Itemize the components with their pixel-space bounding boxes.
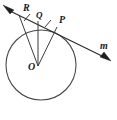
geometry-figure: R Q P O m [0, 0, 117, 120]
circle-outline [6, 30, 76, 100]
point-label-O: O [28, 61, 35, 72]
point-label-R: R [22, 2, 30, 13]
point-label-P: P [59, 14, 66, 25]
arrow-down-right-icon [100, 52, 111, 61]
tick-mark-QP [45, 20, 51, 27]
segment-OP [38, 27, 57, 66]
geometry-diagram-canvas: R Q P O m [0, 0, 117, 120]
line-label-m: m [100, 40, 108, 51]
point-label-Q: Q [36, 10, 43, 20]
